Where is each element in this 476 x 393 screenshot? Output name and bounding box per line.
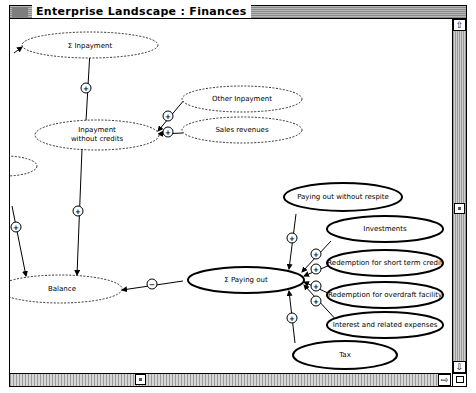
label-other-inpayment: Other Inpayment [212, 95, 272, 103]
svg-text:−: − [149, 281, 155, 289]
horizontal-scroll-thumb[interactable] [135, 374, 146, 385]
label-redemption-overdraft: Redemption for overdraft facility [328, 291, 442, 299]
svg-text:+: + [313, 298, 319, 306]
label-balance: Balance [48, 285, 76, 293]
label-investments: Investments [363, 225, 407, 233]
scroll-down-arrow-icon[interactable]: ⇩ [453, 361, 466, 373]
label-sales-revenues: Sales revenues [215, 126, 269, 134]
svg-text:+: + [289, 235, 295, 243]
svg-text:+: + [165, 129, 171, 137]
svg-text:+: + [313, 266, 319, 274]
edge-offscreen-to-balance [12, 206, 26, 276]
label-inpayment-line1: Inpayment [78, 126, 116, 134]
label-inpayment-line2: without credits [71, 135, 124, 143]
svg-text:+: + [313, 283, 319, 291]
horizontal-scrollbar[interactable]: ⇨ [10, 373, 451, 386]
window-title: Enterprise Landscape : Finances [32, 5, 251, 18]
label-interest-expenses: Interest and related expenses [333, 321, 438, 329]
svg-text:+: + [313, 251, 319, 259]
svg-text:+: + [75, 208, 81, 216]
label-sum-paying-out: Σ Paying out [224, 276, 268, 284]
vertical-scrollbar[interactable]: ⇧ ⇩ [452, 19, 466, 373]
label-sum-inpayment: Σ Inpayment [68, 42, 113, 50]
label-paying-out-without-respite: Paying out without respite [297, 193, 389, 201]
node-offscreen-left [10, 156, 37, 176]
close-box[interactable] [12, 7, 28, 17]
scroll-up-arrow-icon[interactable]: ⇧ [453, 19, 466, 31]
diagram-window: Enterprise Landscape : Finances [9, 5, 467, 387]
scroll-right-arrow-icon[interactable]: ⇨ [438, 374, 451, 386]
svg-text:+: + [13, 224, 19, 232]
svg-text:+: + [83, 85, 89, 93]
vertical-scroll-thumb[interactable] [454, 203, 465, 214]
svg-text:+: + [289, 315, 295, 323]
label-redemption-short-term: Redemption for short term credit [327, 259, 443, 267]
title-bar[interactable]: Enterprise Landscape : Finances [10, 6, 466, 19]
resize-grow-box[interactable] [452, 373, 466, 386]
svg-text:+: + [165, 113, 171, 121]
diagram-canvas[interactable]: Σ Inpayment Inpayment without credits Ot… [10, 19, 451, 373]
label-tax: Tax [338, 351, 351, 359]
